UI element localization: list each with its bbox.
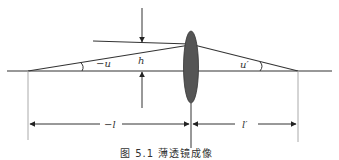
image-angle-label: u′ bbox=[240, 59, 249, 70]
object-angle-arc bbox=[80, 62, 83, 71]
thin-lens bbox=[184, 31, 199, 103]
figure-caption: 图 5.1 薄透镜成像 bbox=[120, 147, 213, 159]
thin-lens-diagram: −u h u′ −l l′ 图 5.1 薄透镜成像 bbox=[0, 0, 339, 160]
image-angle-arc bbox=[260, 62, 262, 71]
object-distance-label: −l bbox=[104, 119, 116, 130]
image-distance-label: l′ bbox=[242, 119, 248, 130]
height-label: h bbox=[138, 55, 144, 66]
object-angle-label: −u bbox=[96, 58, 111, 69]
